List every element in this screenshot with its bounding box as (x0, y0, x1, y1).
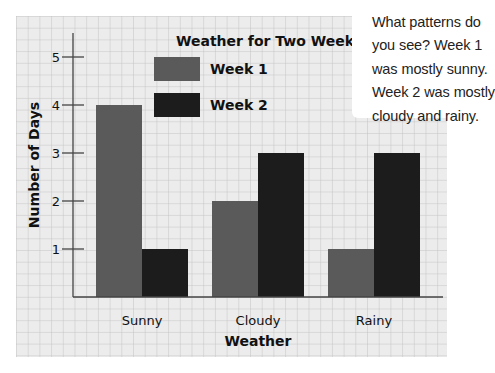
callout-line: What patterns do (372, 11, 482, 34)
x-tick-label: Cloudy (236, 313, 281, 328)
bar-cloudy-week-1 (212, 201, 258, 297)
x-tick-label: Sunny (122, 313, 163, 328)
bar-cloudy-week-2 (258, 153, 304, 297)
y-tick-label: 2 (52, 194, 60, 209)
y-axis-title: Number of Days (26, 102, 42, 228)
bar-rainy-week-2 (374, 153, 420, 297)
legend-label: Week 1 (210, 61, 268, 77)
y-tick-label: 3 (52, 146, 60, 161)
y-tick-label: 1 (52, 242, 60, 257)
y-tick-label: 4 (52, 98, 60, 113)
bar-rainy-week-1 (328, 249, 374, 297)
bar-sunny-week-2 (142, 249, 188, 297)
y-tick-label: 5 (52, 50, 60, 65)
legend-swatch (154, 57, 200, 81)
callout-text: What patterns do you see? Week 1 was mos… (372, 11, 482, 128)
chart-title: Weather for Two Weeks (176, 33, 362, 49)
bar-sunny-week-1 (96, 105, 142, 297)
legend-swatch (154, 93, 200, 117)
callout-line: was mostly sunny. (372, 58, 482, 81)
callout-line: cloudy and rainy. (372, 105, 482, 128)
callout-line: Week 2 was mostly (372, 81, 482, 104)
x-axis-title: Weather (225, 333, 292, 349)
legend-label: Week 2 (210, 97, 268, 113)
x-tick-label: Rainy (356, 313, 393, 328)
callout-line: you see? Week 1 (372, 34, 482, 57)
